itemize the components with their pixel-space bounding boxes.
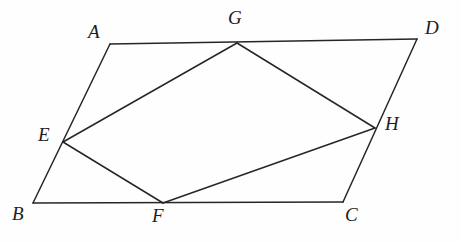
segment-side-DC — [343, 39, 417, 202]
vertex-label-A: A — [88, 22, 100, 41]
vertex-label-C: C — [345, 205, 358, 224]
vertex-label-B: B — [12, 204, 24, 223]
geometry-figure: A B C D E F G H — [0, 0, 461, 243]
vertex-label-F: F — [152, 206, 164, 225]
segment-side-AD — [110, 39, 417, 44]
vertex-label-G: G — [228, 8, 242, 27]
segment-chord-GH — [237, 43, 375, 128]
segment-chord-FE — [63, 142, 163, 203]
vertex-label-D: D — [425, 18, 439, 37]
vertex-label-E: E — [38, 125, 50, 144]
vertex-label-H: H — [385, 114, 399, 133]
segment-chord-HF — [163, 128, 375, 203]
segment-side-BC — [33, 202, 343, 203]
segment-chord-EG — [63, 43, 237, 142]
